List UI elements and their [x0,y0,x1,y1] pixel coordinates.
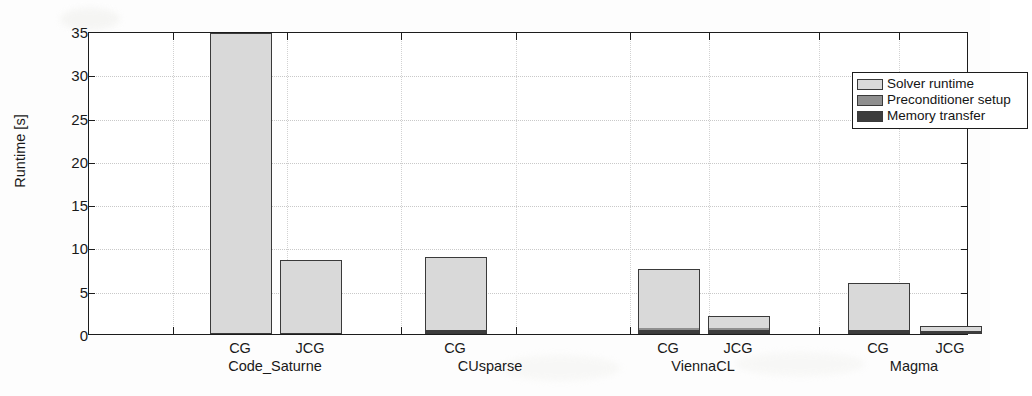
bar-magma-jcg [920,326,982,334]
y-axis-tick-mark [961,293,967,294]
y-axis-tick-mark [89,206,95,207]
bar-segment-memory-transfer [921,331,981,333]
y-axis-tick-label: 25 [71,110,88,127]
x-axis-tick-mark [287,33,288,40]
x-axis-tick-mark [516,33,517,40]
legend-label: Preconditioner setup [887,93,1011,107]
bar-segment-solver-runtime [281,261,341,333]
x-axis-tick-mark [516,327,517,334]
bar-code_saturne-cg [210,33,272,334]
x-axis-tick-mark [899,33,900,40]
x-axis-tick-label: JCG [296,340,325,356]
x-axis-tick-label: CG [229,340,251,356]
bar-segment-memory-transfer [709,330,769,333]
x-axis-tick-mark [630,327,631,334]
y-axis-tick-label: 10 [71,240,88,257]
y-axis-tick-mark [961,206,967,207]
legend-swatch-preconditioner-setup [857,95,883,106]
bar-cusparse-cg [425,257,487,334]
y-axis-tick-mark [961,249,967,250]
plot-area: Solver runtimePreconditioner setupMemory… [88,32,968,335]
y-axis-tick-mark [89,120,95,121]
bar-segment-solver-runtime [639,270,699,328]
bar-segment-memory-transfer [426,330,486,333]
gridline-vertical [516,33,517,334]
y-axis-tick-mark [961,163,967,164]
x-axis-tick-label: CG [867,340,889,356]
bar-segment-memory-transfer [639,330,699,333]
x-axis-tick-mark [401,327,402,334]
y-axis-tick-label: 15 [71,197,88,214]
y-axis-tick-label: 35 [71,24,88,41]
legend-item-memory-transfer: Memory transfer [857,108,1023,124]
y-axis-tick-mark [89,163,95,164]
x-axis-tick-mark [401,33,402,40]
bar-segment-solver-runtime [211,34,271,333]
y-axis-tick-label: 0 [80,327,88,344]
x-axis-tick-mark [819,327,820,334]
x-axis-tick-mark [173,33,174,40]
y-axis-tick-label: 20 [71,153,88,170]
x-axis-tick-labels: CGJCGCode_SaturneCGCUsparseCGJCGViennaCL… [88,336,968,396]
legend-swatch-memory-transfer [857,111,883,122]
y-axis-tick-label: 5 [80,283,88,300]
gridline-vertical [819,33,820,334]
bar-magma-cg [848,283,910,334]
gridline-vertical [401,33,402,334]
y-axis-tick-mark [89,76,95,77]
gridline-vertical [630,33,631,334]
x-axis-tick-label: JCG [724,340,753,356]
x-axis-tick-mark [819,33,820,40]
bar-segment-solver-runtime [709,317,769,328]
y-axis-tick-mark [89,293,95,294]
legend-label: Solver runtime [887,77,974,91]
x-axis-tick-label: JCG [936,340,965,356]
y-axis-tick-label: 30 [71,67,88,84]
bar-segment-solver-runtime [849,284,909,330]
legend-item-solver-runtime: Solver runtime [857,76,1023,92]
legend-label: Memory transfer [887,109,985,123]
x-axis-tick-label: CG [657,340,679,356]
x-axis-group-label: CUsparse [458,358,522,374]
x-axis-group-label: ViennaCL [671,358,734,374]
legend-swatch-solver-runtime [857,79,883,90]
x-axis-tick-mark [173,327,174,334]
x-axis-group-label: Code_Saturne [228,358,322,374]
bar-code_saturne-jcg [280,260,342,334]
bar-viennacl-jcg [708,316,770,334]
x-axis-tick-mark [630,33,631,40]
bar-segment-memory-transfer [849,330,909,333]
x-axis-group-label: Magma [890,358,938,374]
scan-artifact [60,8,120,30]
y-axis-tick-mark [89,249,95,250]
bar-segment-solver-runtime [426,258,486,330]
legend: Solver runtimePreconditioner setupMemory… [852,72,1028,129]
legend-item-preconditioner-setup: Preconditioner setup [857,92,1023,108]
x-axis-tick-mark [709,33,710,40]
bar-viennacl-cg [638,269,700,334]
gridline-vertical [173,33,174,334]
x-axis-tick-label: CG [444,340,466,356]
gridline-vertical [709,33,710,334]
